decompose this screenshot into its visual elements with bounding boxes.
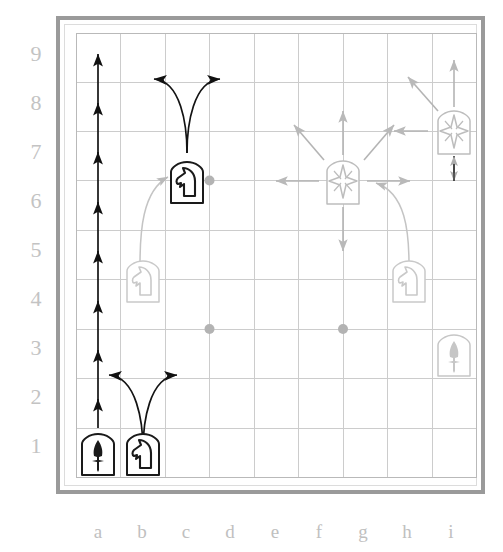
rank-label-3: 3 [22,337,50,359]
file-label-h: h [392,522,422,541]
file-label-b: b [127,522,157,541]
rank-label-7: 7 [22,141,50,163]
king-step-g7-northeast [364,125,394,160]
file-label-e: e [260,522,290,541]
rank-label-9: 9 [22,43,50,65]
rank-label-6: 6 [22,190,50,212]
rank-label-2: 2 [22,386,50,408]
piece-pawn-i3[interactable] [438,335,470,376]
piece-knight-b5-ghost[interactable] [127,261,159,302]
game-board[interactable] [76,33,477,478]
piece-knight-b1[interactable] [127,434,159,475]
knight-jump-c7-to-d9 [187,79,220,153]
rank-label-5: 5 [22,239,50,261]
piece-knight-h5-ghost[interactable] [393,261,425,302]
star-point-g4 [338,324,348,334]
file-label-row: a b c d e f g h i [76,522,477,548]
file-label-c: c [171,522,201,541]
file-label-d: d [215,522,245,541]
grid-border [77,34,477,478]
rank-label-column: 9 8 7 6 5 4 3 2 1 [22,33,52,478]
relocation-path-b5-to-c7 [140,177,168,265]
file-label-g: g [348,522,378,541]
grid-lines [77,34,477,478]
piece-knight-c7[interactable] [171,162,203,203]
file-label-a: a [83,522,113,541]
rank-label-4: 4 [22,288,50,310]
board-diagram: 9 8 7 6 5 4 3 2 1 a b c d e f g h i [0,0,503,552]
knight-jump-c7-to-b9 [154,79,187,153]
star-point-d4 [205,324,215,334]
file-label-i: i [436,522,466,541]
relocation-path-h5-to-g7 [376,183,409,265]
rank-label-8: 8 [22,92,50,114]
knight-c7-jump-arrows [154,79,220,153]
piece-king-i8[interactable] [438,111,470,154]
file-label-f: f [304,522,334,541]
piece-king-g7[interactable] [327,161,359,204]
star-point-d7 [205,176,215,186]
rank-label-1: 1 [22,435,50,457]
piece-pawn-a1[interactable] [82,434,114,475]
